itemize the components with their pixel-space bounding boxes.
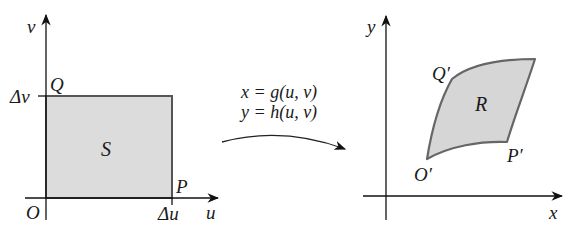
corner-label-o-prime: O′ [414,164,433,185]
left-panel: v u O Q P S Δv Δu [9,15,218,224]
corner-label-p-prime: P′ [506,145,524,166]
corner-label-q-prime: Q′ [432,63,451,84]
u-axis-label: u [206,202,216,223]
corner-label-p: P [175,176,188,197]
v-axis-label: v [27,16,36,37]
mapping-equation-y: y = h(u, v) [239,102,317,123]
transformation-diagram: v u O Q P S Δv Δu x = g(u, v) y = h(u, v… [0,0,574,232]
x-axis-label: x [548,202,558,223]
origin-label-o: O [26,202,40,223]
mapping-arrow [222,135,345,149]
y-axis-label: y [365,16,376,37]
delta-u-label: Δu [157,203,179,224]
region-label-s: S [101,138,111,160]
right-panel: y x Q′ P′ O′ R [363,16,562,223]
region-label-r: R [474,93,487,115]
mapping-equation-x: x = g(u, v) [240,82,317,103]
transformation-mapping: x = g(u, v) y = h(u, v) [222,82,345,149]
delta-v-label: Δv [9,86,30,107]
corner-label-q: Q [50,74,64,95]
